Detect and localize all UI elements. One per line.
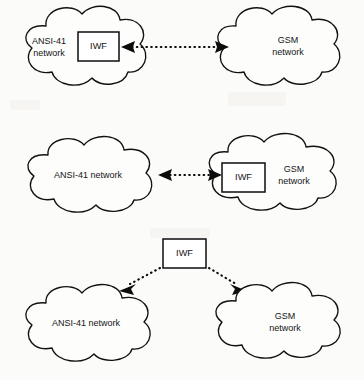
figure-canvas: ANSI-41 network IWF GSM network ANSI-41 … (0, 0, 364, 380)
cloud-gsm-label-line1: GSM (284, 164, 305, 174)
cloud-ansi41-label: ANSI-41 network (54, 170, 123, 180)
arrowhead-left-cloud (119, 284, 136, 295)
diagram-iwf-standalone: IWF ANSI-41 network GSM network (26, 239, 340, 361)
connector-line-right (209, 268, 236, 284)
cloud-gsm (218, 6, 340, 85)
connector-line-left (130, 268, 160, 284)
cloud-gsm-label-line2: network (272, 47, 304, 57)
diagram-iwf-in-gsm-network: ANSI-41 network IWF GSM network (28, 133, 336, 212)
cloud-gsm-label-line1: GSM (278, 35, 299, 45)
cloud-ansi41-label: ANSI-41 network (52, 318, 121, 328)
iwf-box-label: IWF (235, 172, 252, 182)
iwf-box-label: IWF (90, 41, 107, 51)
diagram-svg: ANSI-41 network IWF GSM network ANSI-41 … (0, 0, 364, 380)
cloud-ansi41-label-line2: network (33, 48, 65, 58)
cloud-gsm-label-line2: network (269, 323, 301, 333)
cloud-gsm-label-line2: network (278, 176, 310, 186)
diagram-iwf-in-ansi41-network: ANSI-41 network IWF GSM network (26, 6, 340, 85)
cloud-gsm-label-line1: GSM (275, 311, 296, 321)
cloud-ansi41-label-line1: ANSI-41 (32, 36, 66, 46)
arrowhead-left (158, 169, 172, 181)
iwf-box-label: IWF (176, 248, 193, 258)
